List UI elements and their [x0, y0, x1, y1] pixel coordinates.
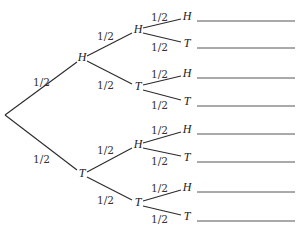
probability-label: 1/2 [151, 99, 168, 111]
probability-label: 1/2 [151, 41, 168, 53]
probability-label: 1/2 [151, 11, 168, 23]
branch-edge [5, 62, 77, 115]
outcome-node: H [182, 9, 193, 23]
probability-label: 1/2 [97, 30, 114, 42]
outcome-node: H [133, 22, 144, 36]
outcome-node: T [135, 79, 143, 93]
outcome-node: H [77, 50, 88, 64]
outcome-node: H [182, 122, 193, 136]
outcome-node: T [79, 166, 87, 180]
probability-label: 1/2 [97, 79, 114, 91]
probability-label: 1/2 [151, 68, 168, 80]
probability-label: 1/2 [151, 124, 168, 136]
probability-tree-diagram: H1/2T1/2H1/2T1/2H1/2T1/2H1/2T1/2H1/2T1/2… [0, 0, 300, 233]
probability-label: 1/2 [97, 144, 114, 156]
probability-label: 1/2 [151, 182, 168, 194]
probability-label: 1/2 [33, 76, 50, 88]
outcome-node: T [184, 150, 192, 164]
probability-label: 1/2 [151, 155, 168, 167]
probability-label: 1/2 [97, 194, 114, 206]
outcome-node: T [184, 209, 192, 223]
probability-label: 1/2 [151, 213, 168, 225]
outcome-node: T [135, 195, 143, 209]
outcome-node: T [184, 36, 192, 50]
outcome-node: H [182, 66, 193, 80]
probability-label: 1/2 [33, 153, 50, 165]
outcome-node: H [182, 180, 193, 194]
outcome-node: T [184, 94, 192, 108]
outcome-node: H [133, 137, 144, 151]
